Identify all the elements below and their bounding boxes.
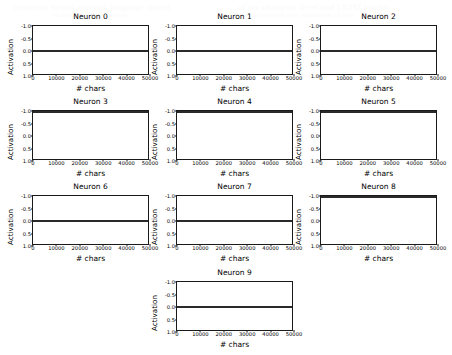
x-tick-label: 30000 [383,76,400,81]
data-line [177,220,292,222]
subplot-title: Neuron 1 [176,12,293,21]
y-tick-label: -0.5 [165,36,175,41]
y-tick-mark [319,208,321,209]
x-tick-label: 40000 [262,76,279,81]
y-tick-mark [175,233,177,234]
y-tick-mark [175,196,177,197]
x-tick-label: 10000 [48,76,65,81]
subplot-neuron-2: Neuron 2Activation1.00.50.0-0.5-1.001000… [290,12,445,97]
y-tick-mark [31,123,33,124]
x-tick-label: 20000 [360,161,377,166]
y-tick-label: 0.0 [23,134,31,139]
x-tick-label: 20000 [360,76,377,81]
subplot-title: Neuron 8 [320,182,437,191]
y-tick-label: 0.5 [167,61,175,66]
y-tick-label: -1.0 [309,24,319,29]
data-line [33,111,148,113]
x-axis-label: # chars [32,84,149,93]
x-tick-label: 30000 [239,246,256,251]
y-tick-label: -1.0 [21,109,31,114]
y-tick-label: 0.5 [167,231,175,236]
background-ghost-text: recurrent neural network language model [14,2,170,12]
y-tick-mark [31,196,33,197]
x-tick-label: 50000 [430,161,447,166]
data-line [321,196,436,198]
subplot-neuron-7: Neuron 7Activation1.00.50.0-0.5-1.001000… [146,182,301,267]
data-line [321,111,436,113]
y-tick-label: 0.5 [311,231,319,236]
x-tick-label: 40000 [118,161,135,166]
x-tick-label: 10000 [192,161,209,166]
x-tick-label: 10000 [48,246,65,251]
x-axis-label: # chars [320,254,437,263]
y-tick-label: 0.0 [311,49,319,54]
y-tick-mark [31,208,33,209]
x-tick-label: 40000 [118,76,135,81]
y-axis-label: Activation [150,209,159,245]
y-tick-mark [175,319,177,320]
x-tick-label: 0 [319,76,322,81]
y-tick-label: -0.5 [21,206,31,211]
x-tick-label: 10000 [192,332,209,337]
x-tick-label: 20000 [216,332,233,337]
y-axis-label: Activation [150,39,159,75]
y-tick-label: 1.0 [23,159,31,164]
x-axis-label: # chars [176,169,293,178]
x-tick-label: 30000 [95,76,112,81]
y-tick-mark [319,123,321,124]
x-axis-label: # chars [32,169,149,178]
plot-area: 1.00.50.0-0.5-1.001000020000300004000050… [176,281,293,331]
plot-area: 1.00.50.0-0.5-1.001000020000300004000050… [32,25,149,75]
plot-area: 1.00.50.0-0.5-1.001000020000300004000050… [176,25,293,75]
subplot-title: Neuron 2 [320,12,437,21]
x-axis-label: # chars [176,254,293,263]
y-tick-label: -1.0 [21,24,31,29]
data-line [33,50,148,52]
y-tick-mark [31,38,33,39]
y-tick-label: 1.0 [167,244,175,249]
y-tick-label: -1.0 [309,194,319,199]
y-tick-label: 0.0 [311,219,319,224]
subplot-title: Neuron 4 [176,97,293,106]
y-tick-label: -0.5 [309,206,319,211]
y-tick-mark [175,136,177,137]
y-tick-label: 0.5 [167,317,175,322]
y-tick-label: 0.5 [167,146,175,151]
y-tick-label: 0.0 [167,49,175,54]
y-tick-label: 0.0 [167,134,175,139]
y-tick-mark [175,148,177,149]
x-tick-label: 0 [31,76,34,81]
x-axis-label: # chars [320,169,437,178]
y-tick-mark [31,26,33,27]
subplot-neuron-9: Neuron 9Activation1.00.50.0-0.5-1.001000… [146,268,301,353]
subplot-neuron-1: Neuron 1Activation1.00.50.0-0.5-1.001000… [146,12,301,97]
x-tick-label: 20000 [72,246,89,251]
y-tick-label: 1.0 [311,159,319,164]
x-tick-label: 30000 [95,246,112,251]
plot-area: 1.00.50.0-0.5-1.001000020000300004000050… [320,110,437,160]
x-tick-label: 0 [175,332,178,337]
y-axis-label: Activation [150,295,159,331]
y-tick-label: 0.5 [23,61,31,66]
x-tick-label: 20000 [216,161,233,166]
x-tick-label: 40000 [406,76,423,81]
y-tick-label: -0.5 [21,36,31,41]
x-tick-label: 50000 [286,332,303,337]
y-tick-mark [175,63,177,64]
y-tick-label: 0.0 [167,219,175,224]
y-axis-label: Activation [6,209,15,245]
x-tick-label: 50000 [430,76,447,81]
y-tick-label: 1.0 [167,74,175,79]
y-axis-label: Activation [294,124,303,160]
x-tick-label: 0 [175,76,178,81]
y-tick-label: 1.0 [23,74,31,79]
x-tick-label: 0 [31,161,34,166]
subplot-neuron-5: Neuron 5Activation1.00.50.0-0.5-1.001000… [290,97,445,182]
plot-area: 1.00.50.0-0.5-1.001000020000300004000050… [32,195,149,245]
y-axis-label: Activation [6,124,15,160]
y-tick-label: 1.0 [167,330,175,335]
y-tick-mark [175,208,177,209]
y-tick-mark [175,38,177,39]
x-tick-label: 30000 [239,161,256,166]
subplot-title: Neuron 6 [32,182,149,191]
